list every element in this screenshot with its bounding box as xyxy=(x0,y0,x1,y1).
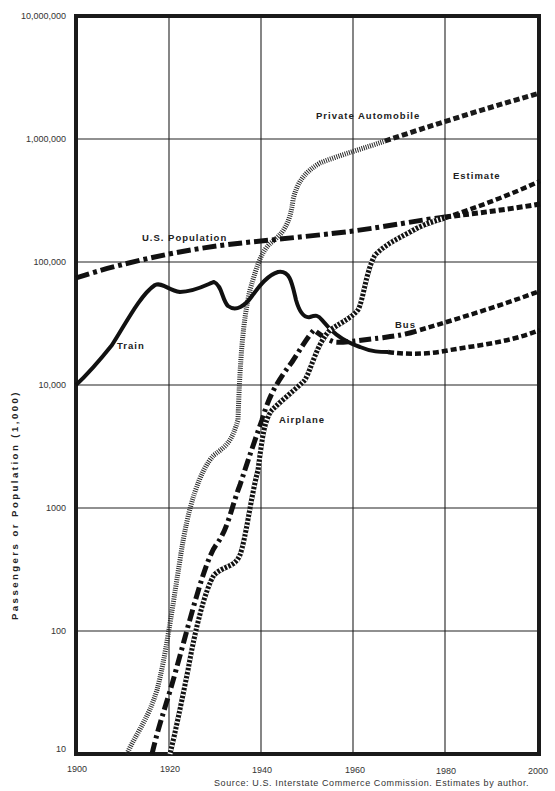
y-tick: 10,000,000 xyxy=(21,11,66,21)
gridlines xyxy=(76,16,540,754)
x-tick: 1940 xyxy=(252,765,272,775)
x-tick: 2000 xyxy=(528,766,548,776)
x-axis-ticks: 1900 1920 1940 1960 1980 2000 xyxy=(67,764,548,776)
y-tick: 1,000,000 xyxy=(26,134,66,144)
label-airplane: Airplane xyxy=(279,414,325,425)
y-tick: 1000 xyxy=(46,503,66,513)
label-us-population: U.S. Population xyxy=(142,232,227,243)
x-tick: 1980 xyxy=(436,766,456,776)
label-train: Train xyxy=(117,340,145,351)
x-tick: 1920 xyxy=(160,764,180,774)
y-tick: 100 xyxy=(51,626,66,636)
y-tick: 10,000 xyxy=(38,380,66,390)
label-bus: Bus xyxy=(395,319,416,330)
x-tick: 1960 xyxy=(345,765,365,775)
y-tick: 100,000 xyxy=(33,257,66,267)
y-axis-label: Passengers or Population (1,000) xyxy=(9,390,20,620)
y-tick: 10 xyxy=(56,744,66,754)
transport-chart: 10,000,000 1,000,000 100,000 10,000 1000… xyxy=(0,0,555,791)
x-tick: 1900 xyxy=(67,764,87,774)
label-private-automobile: Private Automobile xyxy=(316,110,420,121)
y-axis-ticks: 10,000,000 1,000,000 100,000 10,000 1000… xyxy=(21,11,66,754)
source-note: Source: U.S. Interstate Commerce Commiss… xyxy=(214,778,529,788)
series-bus xyxy=(152,291,540,754)
label-estimate: Estimate xyxy=(453,170,501,181)
series-airplane xyxy=(170,181,540,754)
